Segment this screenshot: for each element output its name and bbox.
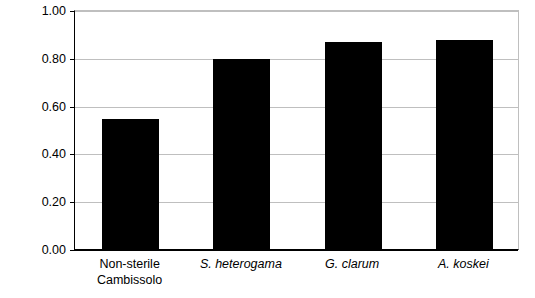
y-tick-mark bbox=[70, 59, 75, 60]
y-tick-label: 1.00 bbox=[42, 4, 66, 18]
gridline bbox=[75, 11, 518, 12]
bar bbox=[102, 119, 159, 249]
x-tick-label-line: G. clarum bbox=[297, 256, 408, 272]
y-tick-mark bbox=[70, 202, 75, 203]
y-tick-mark bbox=[70, 11, 75, 12]
y-tick-label: 0.80 bbox=[42, 52, 66, 66]
x-tick-label: S. heterogama bbox=[185, 256, 296, 272]
bar bbox=[436, 40, 493, 249]
x-tick-label-line: Non-sterile bbox=[74, 256, 185, 272]
bar-chart: Kg C/tree 1.000.800.600.400.200.00 Non-s… bbox=[0, 0, 535, 298]
gridline bbox=[75, 250, 518, 251]
x-tick-label-line: A. koskei bbox=[408, 256, 519, 272]
y-tick-label: 0.60 bbox=[42, 100, 66, 114]
y-tick-label: 0.40 bbox=[42, 147, 66, 161]
y-tick-mark bbox=[70, 250, 75, 251]
y-tick-label: 0.00 bbox=[42, 243, 66, 257]
x-tick-label-line: S. heterogama bbox=[185, 256, 296, 272]
bar bbox=[325, 42, 382, 249]
y-tick-mark bbox=[70, 154, 75, 155]
y-tick-mark bbox=[70, 107, 75, 108]
x-tick-label-line: Cambissolo bbox=[74, 272, 185, 288]
x-tick-label: Non-sterileCambissolo bbox=[74, 256, 185, 288]
bar bbox=[213, 59, 270, 249]
y-tick-label: 0.20 bbox=[42, 195, 66, 209]
x-tick-label: A. koskei bbox=[408, 256, 519, 272]
plot-area: 1.000.800.600.400.200.00 bbox=[74, 10, 519, 250]
x-tick-label: G. clarum bbox=[297, 256, 408, 272]
